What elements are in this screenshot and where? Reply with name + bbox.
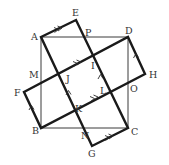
label-h: H bbox=[149, 69, 157, 80]
label-f: F bbox=[14, 87, 21, 98]
label-c: C bbox=[131, 126, 138, 137]
double-arrow-mark-gc bbox=[105, 134, 113, 141]
label-l: L bbox=[100, 85, 107, 96]
label-n: N bbox=[81, 130, 89, 141]
label-i: I bbox=[91, 60, 95, 71]
label-m: M bbox=[29, 69, 39, 80]
label-a: A bbox=[30, 31, 38, 42]
rectangle-aecg bbox=[41, 20, 128, 146]
label-b: B bbox=[32, 125, 39, 136]
label-d: D bbox=[125, 25, 133, 36]
label-e: E bbox=[72, 7, 79, 18]
label-o: O bbox=[130, 83, 138, 94]
square-abcd bbox=[41, 37, 128, 128]
label-k: K bbox=[75, 103, 83, 114]
rectangle-dhbf bbox=[24, 37, 145, 128]
label-g: G bbox=[88, 148, 96, 159]
label-p: P bbox=[85, 27, 92, 38]
label-j: J bbox=[65, 73, 70, 84]
double-arrow-mark-ji bbox=[73, 60, 81, 67]
geometry-diagram: A E P D H M J I F L O K B N C G bbox=[0, 0, 169, 165]
